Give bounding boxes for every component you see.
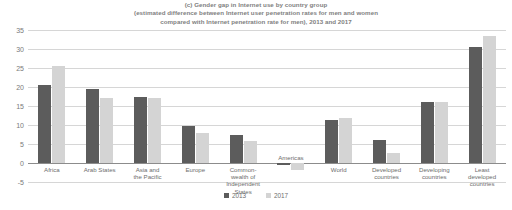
- y-axis-tick-20: 20: [16, 84, 24, 91]
- category-label: Least developed countries: [450, 166, 512, 188]
- bar-group: [325, 30, 352, 182]
- bar-2013: [373, 140, 386, 163]
- bar-2013: [86, 89, 99, 163]
- bar-group: [134, 30, 161, 182]
- bar-2013: [325, 120, 338, 163]
- bar-group: [182, 30, 209, 182]
- bar-2013: [277, 163, 290, 165]
- bar-group: [230, 30, 257, 182]
- legend-item-2013: 2013: [224, 191, 246, 199]
- bar-group: [373, 30, 400, 182]
- bar-2017: [148, 98, 161, 163]
- bar-2013: [134, 97, 147, 163]
- y-axis-tick-25: 25: [16, 65, 24, 72]
- legend-label-2013: 2013: [232, 192, 246, 199]
- bar-2017: [483, 36, 496, 163]
- y-axis-tick-5: 5: [20, 141, 24, 148]
- bar-2013: [421, 102, 434, 163]
- y-axis-tick-15: 15: [16, 103, 24, 110]
- bar-group: [38, 30, 65, 182]
- chart-title-line-1: (c) Gender gap in Internet use by countr…: [0, 1, 512, 9]
- legend-item-2017: 2017: [266, 191, 288, 199]
- bar-2017: [244, 141, 257, 163]
- bar-2017: [435, 102, 448, 163]
- legend-swatch-2017-icon: [266, 193, 271, 198]
- bar-2013: [230, 135, 243, 164]
- y-axis-tick-35: 35: [16, 27, 24, 34]
- gender-gap-bar-chart: (c) Gender gap in Internet use by countr…: [0, 0, 512, 210]
- bar-2017: [387, 153, 400, 163]
- bar-group: [469, 30, 496, 182]
- category-label: Americas: [259, 154, 323, 161]
- chart-title: (c) Gender gap in Internet use by countr…: [0, 1, 512, 26]
- y-axis-tick--5: -5: [18, 179, 24, 186]
- legend-swatch-2013-icon: [224, 193, 229, 198]
- y-axis-tick-10: 10: [16, 122, 24, 129]
- bar-2017: [339, 118, 352, 163]
- bar-2017: [196, 133, 209, 163]
- y-axis-tick-30: 30: [16, 46, 24, 53]
- bar-2013: [38, 85, 51, 163]
- chart-legend: 2013 2017: [0, 191, 512, 199]
- chart-title-line-2: (estimated difference between Internet u…: [0, 9, 512, 17]
- bar-2017: [291, 163, 304, 170]
- bar-2013: [182, 126, 195, 163]
- bar-2017: [52, 66, 65, 163]
- bar-group: [86, 30, 113, 182]
- bar-group: [421, 30, 448, 182]
- chart-title-line-3: compared with Internet penetration rate …: [0, 18, 512, 26]
- bar-2017: [100, 98, 113, 163]
- legend-label-2017: 2017: [274, 192, 288, 199]
- bar-2013: [469, 47, 482, 163]
